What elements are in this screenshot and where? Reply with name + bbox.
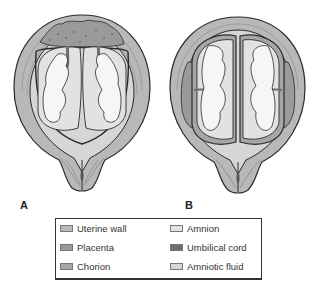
- figure-b-label: B: [185, 199, 193, 211]
- legend-label: Uterine wall: [77, 223, 127, 234]
- swatch-umbilical-cord: [170, 244, 183, 251]
- legend-item-placenta: Placenta: [60, 242, 114, 253]
- swatch-uterine-wall: [60, 225, 73, 232]
- swatch-placenta: [60, 244, 73, 251]
- legend-item-amnion: Amnion: [170, 223, 219, 234]
- legend-label: Chorion: [77, 261, 110, 272]
- legend-label: Umbilical cord: [187, 242, 247, 253]
- figure-b-diagram: [160, 0, 313, 200]
- figure-a-diagram: [0, 0, 160, 200]
- figure-a-label: A: [20, 199, 28, 211]
- legend-item-chorion: Chorion: [60, 261, 110, 272]
- swatch-amniotic-fluid: [170, 263, 183, 270]
- legend-label: Placenta: [77, 242, 114, 253]
- legend: Uterine wall Placenta Chorion Amnion Umb…: [55, 218, 262, 280]
- legend-label: Amniotic fluid: [187, 261, 244, 272]
- legend-label: Amnion: [187, 223, 219, 234]
- swatch-chorion: [60, 263, 73, 270]
- swatch-amnion: [170, 225, 183, 232]
- legend-item-uterine-wall: Uterine wall: [60, 223, 127, 234]
- legend-item-amniotic-fluid: Amniotic fluid: [170, 261, 244, 272]
- legend-item-umbilical-cord: Umbilical cord: [170, 242, 247, 253]
